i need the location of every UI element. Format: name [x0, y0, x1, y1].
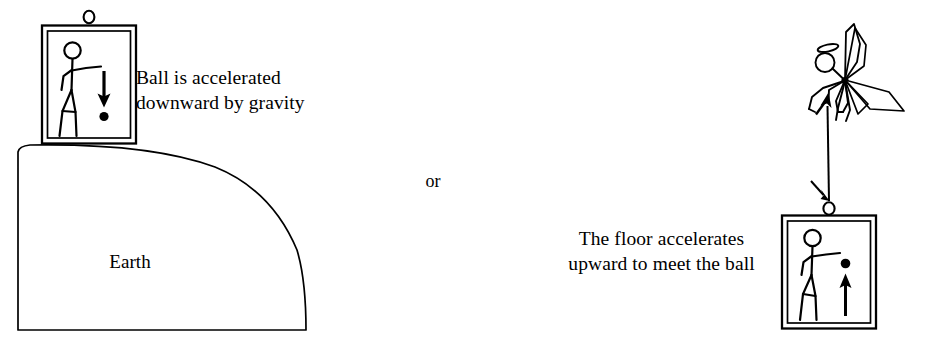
- left-elevator-inner-frame: [48, 31, 131, 138]
- earth-body: [18, 145, 306, 330]
- rope-line: [828, 106, 830, 201]
- right-figure-head: [804, 230, 820, 246]
- left-figure-torso: [72, 59, 73, 90]
- earth-outline: [18, 145, 306, 330]
- right-elevator-inner-frame: [788, 221, 871, 323]
- right-figure-torso: [812, 247, 813, 276]
- right-elevator-hook-ring-icon: [823, 202, 834, 214]
- angel-neck: [833, 69, 845, 80]
- right-caption-line2: upward to meet the ball: [568, 253, 754, 274]
- left-ball: [99, 112, 108, 121]
- right-caption: The floor acceleratesupward to meet the …: [537, 226, 786, 277]
- lift-rope: [811, 93, 832, 202]
- angel-robe-left: [836, 81, 845, 120]
- right-caption-line1: The floor accelerates: [579, 228, 745, 249]
- earth-label: Earth: [75, 250, 185, 275]
- or-connector-label: or: [409, 170, 457, 193]
- left-figure-hip-line: [63, 111, 76, 112]
- right-ball: [841, 259, 851, 269]
- angel-hand-left: [809, 109, 815, 112]
- left-elevator-hook-ring-icon: [84, 11, 95, 23]
- left-caption-line2: downward by gravity: [136, 92, 305, 113]
- rope-down-arrow-icon: [811, 181, 830, 201]
- left-elevator-group: [42, 11, 136, 144]
- angel-head: [816, 53, 835, 72]
- left-caption: Ball is accelerateddownward by gravity: [136, 65, 305, 116]
- angel-halo-icon: [817, 42, 839, 53]
- physics-diagram: Ball is accelerateddownward by gravity o…: [0, 0, 927, 341]
- left-caption-line1: Ball is accelerated: [136, 67, 281, 88]
- right-elevator-group: [782, 202, 876, 328]
- diagram-vector-layer: [0, 0, 927, 341]
- angel-wing-right: [845, 80, 904, 111]
- left-figure-head: [64, 42, 80, 58]
